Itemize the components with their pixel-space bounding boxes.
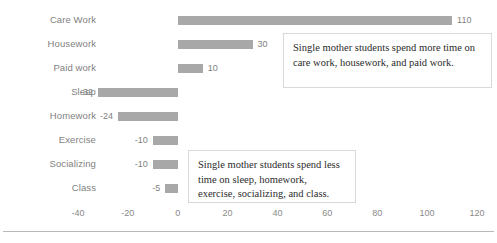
bar-value-label: 10 xyxy=(208,56,218,80)
bar xyxy=(98,88,178,97)
category-label: Class xyxy=(0,176,96,200)
bar xyxy=(178,40,253,49)
x-axis-tick-label: 20 xyxy=(223,205,233,221)
category-label: Housework xyxy=(0,32,96,56)
bar-value-label: 30 xyxy=(258,32,268,56)
footer-divider xyxy=(3,231,494,232)
bar-row: Care Work110 xyxy=(0,8,497,32)
x-axis-tick-label: 0 xyxy=(175,205,180,221)
annotation-more-time: Single mother students spend more time o… xyxy=(283,33,492,88)
x-axis-tick-label: -40 xyxy=(71,205,84,221)
bar-value-label: -24 xyxy=(100,104,113,128)
bar-value-label: -10 xyxy=(135,152,148,176)
x-axis-tick-label: -20 xyxy=(121,205,134,221)
bar xyxy=(178,64,203,73)
category-label: Exercise xyxy=(0,128,96,152)
x-axis-tick-label: 60 xyxy=(322,205,332,221)
bar-row: Homework-24 xyxy=(0,104,497,128)
x-axis-tick-label: 40 xyxy=(272,205,282,221)
bar xyxy=(118,112,178,121)
bar xyxy=(178,16,452,25)
x-axis-tick-label: 100 xyxy=(420,205,435,221)
bar xyxy=(153,136,178,145)
bar-row: Exercise-10 xyxy=(0,128,497,152)
bar-value-label: 110 xyxy=(457,8,471,32)
category-label: Paid work xyxy=(0,56,96,80)
category-label: Socializing xyxy=(0,152,96,176)
bar-value-label: -32 xyxy=(80,80,93,104)
x-axis: -40-20020406080100120 xyxy=(0,205,497,225)
x-axis-tick-label: 120 xyxy=(469,205,484,221)
category-label: Care Work xyxy=(0,8,96,32)
chart-figure: Care Work110Housework30Paid work10Sleep-… xyxy=(0,0,497,243)
x-axis-tick-label: 80 xyxy=(372,205,382,221)
bar-value-label: -5 xyxy=(152,176,160,200)
annotation-less-time: Single mother students spend less time o… xyxy=(188,150,356,203)
bar xyxy=(165,184,177,193)
category-label: Homework xyxy=(0,104,96,128)
bar xyxy=(153,160,178,169)
bar-value-label: -10 xyxy=(135,128,148,152)
